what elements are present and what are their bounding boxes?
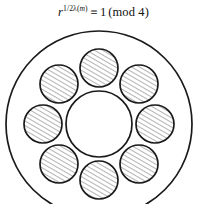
satellite-left: [24, 105, 62, 143]
congruence-formula: r1/2λ(m)≡1(mod 4): [58, 6, 149, 19]
satellite-right: [136, 105, 174, 143]
satellite-bottom: [80, 161, 118, 199]
formula-exponent-half: 1/2: [63, 4, 73, 13]
satellite-top-left: [40, 65, 78, 103]
ring-diagram: [0, 24, 207, 204]
satellite-bottom-right: [120, 145, 158, 183]
page-root: r1/2λ(m)≡1(mod 4): [0, 0, 207, 204]
formula-container: r1/2λ(m)≡1(mod 4): [0, 0, 207, 25]
formula-modulus: (mod 4): [106, 5, 149, 19]
inner-unshaded-circle: [66, 91, 132, 157]
satellite-top: [80, 49, 118, 87]
satellite-top-right: [120, 65, 158, 103]
formula-relation-symbol: ≡: [88, 5, 100, 19]
satellite-bottom-left: [40, 145, 78, 183]
diagram-container: [0, 24, 207, 204]
formula-exponent: 1/2λ(m): [63, 4, 88, 13]
